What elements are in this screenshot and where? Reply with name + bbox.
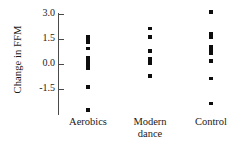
data-point bbox=[86, 41, 89, 44]
data-point bbox=[86, 67, 89, 70]
data-point bbox=[209, 102, 212, 105]
data-point bbox=[148, 27, 151, 30]
category-label: Control bbox=[174, 116, 244, 128]
data-point bbox=[209, 35, 212, 38]
category-label-line: dance bbox=[113, 128, 187, 140]
data-point bbox=[148, 35, 151, 38]
data-point bbox=[209, 10, 212, 13]
category-label-line: Control bbox=[174, 116, 244, 128]
data-point bbox=[209, 77, 212, 80]
data-point bbox=[148, 74, 151, 77]
data-point bbox=[148, 49, 151, 52]
dotplot-chart: Change in FFM 3.01.50.0-1.5 AerobicsMode… bbox=[0, 0, 244, 146]
data-point bbox=[86, 85, 89, 88]
data-point bbox=[148, 62, 151, 65]
data-point bbox=[86, 47, 89, 50]
data-point bbox=[209, 59, 212, 62]
data-point bbox=[86, 108, 89, 111]
data-point bbox=[209, 52, 212, 55]
